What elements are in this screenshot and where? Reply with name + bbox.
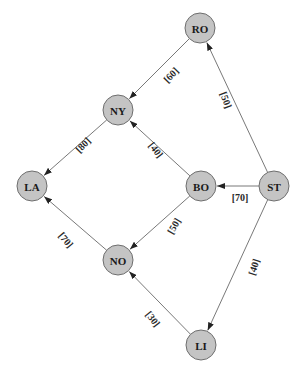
edge-li-to-no: [129, 271, 190, 334]
graph-diagram: [60][80][40][50][70][50][70][40][30] RON…: [0, 0, 303, 380]
edge-weight-label: [70]: [56, 230, 75, 250]
node-ny: NY: [103, 95, 133, 125]
node-ro: RO: [185, 13, 215, 43]
edge-ro-to-ny: [129, 39, 189, 99]
edge-weight-label: [50]: [218, 90, 234, 109]
node-label: LI: [195, 340, 207, 352]
node-la: LA: [17, 171, 47, 201]
edge-labels-layer: [60][80][40][50][70][50][70][40][30]: [56, 65, 261, 329]
edges-layer: [44, 39, 268, 335]
edge-weight-label: [40]: [246, 257, 262, 276]
edge-weight-label: [40]: [147, 140, 166, 160]
edge-weight-label: [30]: [144, 309, 163, 329]
edge-weight-label: [50]: [165, 216, 183, 236]
edge-weight-label: [70]: [232, 192, 249, 203]
node-label: ST: [267, 181, 281, 193]
node-label: RO: [192, 23, 209, 35]
edge-weight-label: [60]: [161, 65, 180, 85]
node-label: LA: [24, 181, 39, 193]
node-st: ST: [259, 171, 289, 201]
node-li: LI: [186, 330, 216, 360]
node-label: NY: [110, 105, 126, 117]
node-label: BO: [193, 181, 209, 193]
node-no: NO: [103, 245, 133, 275]
edge-weight-label: [80]: [73, 135, 92, 155]
node-bo: BO: [186, 171, 216, 201]
edge-st-to-ro: [207, 42, 268, 172]
nodes-layer: RONYLABOSTNOLI: [17, 13, 289, 360]
node-label: NO: [110, 255, 127, 267]
